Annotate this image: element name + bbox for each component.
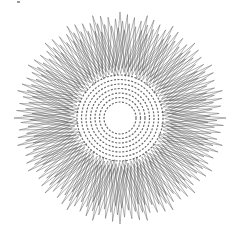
center-hole [106, 104, 134, 132]
spirograph-figure [0, 0, 241, 233]
